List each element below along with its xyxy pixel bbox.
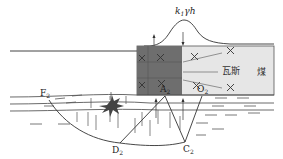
outburst-star-icon [99, 95, 124, 117]
point-d-label: D2 [112, 146, 123, 156]
point-a-label: A2 [160, 85, 170, 95]
point-c-label: C2 [183, 145, 194, 155]
up-arrow-icon [182, 98, 185, 120]
coal-label: 煤 [257, 68, 266, 77]
up-arrow-icon [155, 98, 158, 118]
point-f-label: F2 [40, 89, 50, 99]
stress-curve [144, 20, 274, 46]
point-o-label: O2 [197, 85, 208, 95]
load-label: k1γh [175, 7, 195, 17]
gas-label: 瓦斯 [222, 67, 240, 76]
coal-outburst-diagram [0, 0, 283, 159]
up-arrow-icon [153, 34, 156, 46]
strata-dashes [30, 95, 260, 135]
down-arrow-icon [182, 32, 185, 46]
